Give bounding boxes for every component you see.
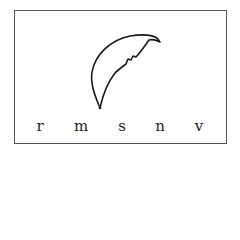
letter-v: v <box>195 117 203 135</box>
letter-s: s <box>118 117 126 135</box>
letter-r: r <box>36 117 43 135</box>
letter-n: n <box>155 117 165 135</box>
letter-m: m <box>74 117 88 135</box>
